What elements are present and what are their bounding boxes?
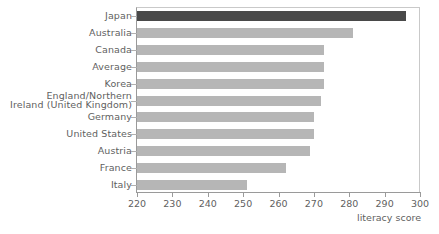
category-label-italy: Italy (0, 180, 132, 190)
y-axis-tick (131, 16, 137, 17)
y-axis-tick (131, 101, 137, 102)
y-axis-tick (131, 84, 137, 85)
bar-japan (137, 11, 406, 21)
bar-england-northern-ireland-united-kingdom (137, 96, 321, 106)
x-axis-tick-label: 230 (157, 198, 187, 209)
bar-canada (137, 45, 324, 55)
bars-layer (137, 7, 420, 193)
x-axis-tick (349, 193, 350, 197)
x-axis-tick (385, 193, 386, 197)
x-axis-tick-label: 220 (122, 198, 152, 209)
category-axis-labels: JapanAustraliaCanadaAverageKoreaEngland/… (0, 7, 132, 193)
x-axis-tick-label: 250 (228, 198, 258, 209)
bar-average (137, 62, 324, 72)
category-label-australia: Australia (0, 28, 132, 38)
y-axis-tick (131, 117, 137, 118)
category-label-united-states: United States (0, 129, 132, 139)
category-label-korea: Korea (0, 79, 132, 89)
x-axis-tick (208, 193, 209, 197)
x-axis-title: literacy score (357, 212, 421, 223)
bar-australia (137, 28, 353, 38)
y-axis-tick (131, 33, 137, 34)
bar-korea (137, 79, 324, 89)
category-label-germany: Germany (0, 112, 132, 122)
x-axis-tick-label: 300 (405, 198, 435, 209)
bar-italy (137, 180, 247, 190)
category-label-canada: Canada (0, 45, 132, 55)
bar-united-states (137, 129, 314, 139)
y-axis-tick (131, 67, 137, 68)
x-axis-tick-label: 280 (334, 198, 364, 209)
x-axis-tick (243, 193, 244, 197)
category-label-england-northern-ireland-united-kingdom: England/NorthernIreland (United Kingdom) (0, 91, 132, 111)
bar-germany (137, 112, 314, 122)
x-axis-tick-label: 290 (370, 198, 400, 209)
bar-austria (137, 146, 310, 156)
bar-france (137, 163, 286, 173)
x-axis-tick-label: 240 (193, 198, 223, 209)
literacy-score-bar-chart: JapanAustraliaCanadaAverageKoreaEngland/… (0, 0, 439, 234)
x-axis-tick-label: 260 (264, 198, 294, 209)
category-label-austria: Austria (0, 146, 132, 156)
category-label-france: France (0, 163, 132, 173)
x-axis-tick-label: 270 (299, 198, 329, 209)
x-axis-tick (314, 193, 315, 197)
x-axis-tick (420, 193, 421, 197)
y-axis-tick (131, 151, 137, 152)
y-axis-tick (131, 185, 137, 186)
y-axis-tick (131, 134, 137, 135)
y-axis-tick (131, 50, 137, 51)
y-axis-tick (131, 168, 137, 169)
category-label-japan: Japan (0, 11, 132, 21)
category-label-average: Average (0, 62, 132, 72)
x-axis-tick (172, 193, 173, 197)
x-axis-tick (137, 193, 138, 197)
x-axis-tick (279, 193, 280, 197)
category-label-line-2: Ireland (United Kingdom) (0, 100, 132, 110)
